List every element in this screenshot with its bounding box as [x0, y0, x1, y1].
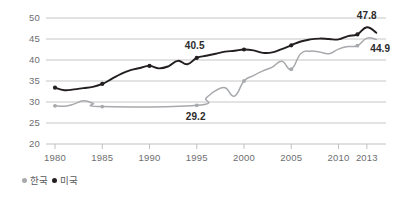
- data-point-marker: [356, 44, 360, 48]
- annotation-label: 47.8: [357, 10, 377, 21]
- y-axis-tick-label: 50: [18, 12, 40, 23]
- legend-label-usa: 미국: [60, 176, 78, 186]
- data-point-marker: [53, 104, 57, 108]
- data-point-marker: [242, 79, 246, 83]
- data-point-marker: [289, 67, 293, 71]
- x-axis-tick-label: 1985: [82, 152, 122, 163]
- x-axis-ticks: [55, 144, 367, 149]
- x-axis-tick-label: 1990: [130, 152, 170, 163]
- data-point-marker: [100, 82, 104, 86]
- chart-legend: 한국 미국: [22, 176, 78, 186]
- data-point-marker: [100, 105, 104, 109]
- x-axis-tick-label: 2005: [271, 152, 311, 163]
- data-point-marker: [242, 47, 246, 51]
- x-axis-tick-label: 2000: [224, 152, 264, 163]
- data-point-marker: [147, 64, 151, 68]
- y-axis-tick-label: 40: [18, 54, 40, 65]
- annotation-label: 29.2: [186, 111, 206, 122]
- gridlines: [46, 18, 386, 144]
- annotation-label: 40.5: [185, 40, 205, 51]
- y-axis-tick-label: 35: [18, 75, 40, 86]
- line-chart: 20253035404550 1980198519901995200020052…: [0, 0, 399, 203]
- y-axis-tick-label: 25: [18, 117, 40, 128]
- y-axis-tick-label: 20: [18, 138, 40, 149]
- data-point-marker: [195, 56, 199, 60]
- data-point-marker: [355, 32, 359, 36]
- legend-label-korea: 한국: [30, 176, 48, 186]
- y-axis-tick-label: 45: [18, 33, 40, 44]
- data-point-marker: [53, 86, 57, 90]
- legend-item-korea[interactable]: 한국: [22, 176, 48, 186]
- legend-item-usa[interactable]: 미국: [52, 176, 78, 186]
- legend-dot-usa-icon: [52, 178, 57, 183]
- y-axis-tick-label: 30: [18, 96, 40, 107]
- data-point-marker: [195, 103, 199, 107]
- annotation-label: 44.9: [370, 43, 390, 54]
- data-point-marker: [289, 43, 293, 47]
- x-axis-tick-label: 1995: [177, 152, 217, 163]
- x-axis-tick-label: 1980: [35, 152, 75, 163]
- legend-dot-korea-icon: [22, 178, 27, 183]
- x-axis-tick-label: 2013: [347, 152, 387, 163]
- chart-plot-area: [0, 0, 399, 203]
- series-line: [55, 38, 376, 107]
